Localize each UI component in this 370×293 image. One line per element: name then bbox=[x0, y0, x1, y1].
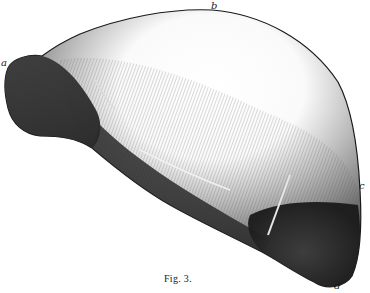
label-c: c bbox=[359, 181, 365, 191]
engraving-figure: a b c d Fig. 3. bbox=[0, 0, 370, 293]
label-b: b bbox=[211, 1, 217, 11]
figure-caption: Fig. 3. bbox=[164, 273, 192, 284]
label-a: a bbox=[1, 58, 7, 68]
right-lobe bbox=[248, 202, 360, 287]
specimen-illustration bbox=[0, 0, 370, 293]
label-d: d bbox=[334, 281, 340, 291]
